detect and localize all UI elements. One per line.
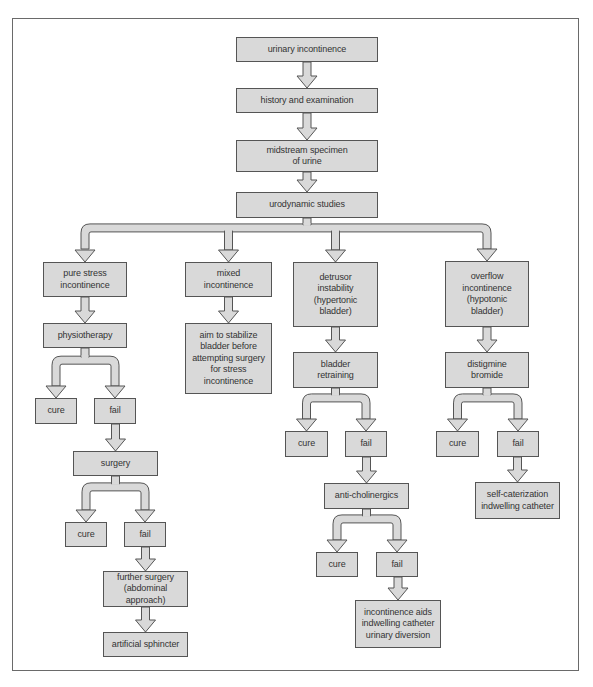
node-urinary-incontinence: urinary incontinence <box>236 37 378 62</box>
node-self-caterization: self-caterization indwelling catheter <box>475 482 560 519</box>
node-cure: cure <box>65 522 107 547</box>
node-overflow: overflow incontinence (hypotonic bladder… <box>445 261 529 327</box>
node-cure: cure <box>316 552 358 577</box>
node-midstream-specimen: midstream specimen of urine <box>236 140 378 172</box>
node-distigmine: distigmine bromide <box>445 352 529 388</box>
node-aim-stabilize: aim to stabilize bladder before attempti… <box>185 323 272 394</box>
node-fail: fail <box>124 522 166 547</box>
node-fail: fail <box>94 398 136 424</box>
node-pure-stress: pure stress incontinence <box>43 262 127 297</box>
node-artificial-sphincter: artificial sphincter <box>103 632 188 657</box>
node-fail: fail <box>497 431 539 457</box>
node-urodynamic-studies: urodynamic studies <box>236 192 378 218</box>
node-bladder-retraining: bladder retraining <box>293 352 378 388</box>
node-fail: fail <box>345 431 387 457</box>
node-anti-cholinergics: anti-cholinergics <box>324 483 409 509</box>
node-further-surgery: further surgery (abdominal approach) <box>103 571 188 607</box>
node-cure: cure <box>35 398 77 424</box>
node-mixed: mixed incontinence <box>185 262 272 297</box>
node-fail: fail <box>376 552 418 577</box>
node-incontinence-aids: incontinence aids indwelling catheter ur… <box>355 600 441 648</box>
node-detrusor: detrusor instability (hypertonic bladder… <box>293 262 378 327</box>
node-physiotherapy: physiotherapy <box>43 323 127 348</box>
node-cure: cure <box>436 431 479 457</box>
node-surgery: surgery <box>73 451 158 476</box>
node-cure: cure <box>285 431 328 457</box>
node-history-examination: history and examination <box>236 88 378 113</box>
